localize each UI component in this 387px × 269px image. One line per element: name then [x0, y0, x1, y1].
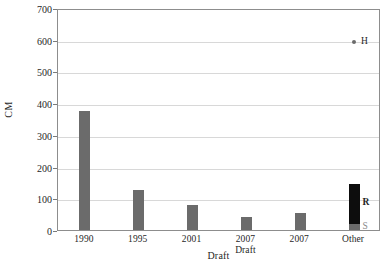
x-tick-label: 2001 [165, 234, 219, 245]
y-tick-label: 400 [12, 100, 52, 110]
bar-segment[interactable] [187, 205, 198, 230]
bar-segment[interactable] [349, 184, 360, 224]
y-tick-label: 300 [12, 132, 52, 142]
x-tick-label: 1995 [111, 234, 165, 245]
bar[interactable] [79, 9, 90, 230]
bar[interactable] [241, 9, 252, 230]
bar-segment[interactable] [133, 190, 144, 230]
y-tick-label: 0 [12, 227, 52, 237]
bar-segment[interactable] [295, 213, 306, 230]
y-tick-label: 700 [12, 5, 52, 15]
scatter-point-label: H [361, 37, 368, 47]
x-tick-label: 1990 [57, 234, 111, 245]
bar-segment[interactable] [241, 217, 252, 230]
gridline [58, 169, 379, 170]
segment-label-r: R [363, 198, 370, 208]
x-tick-label-line: 2007 [219, 234, 273, 245]
gridline [58, 200, 379, 201]
bar-segment[interactable] [79, 111, 90, 230]
x-tick-label-line: Other [326, 234, 380, 245]
x-tick-label-line: 2007 [272, 234, 326, 245]
x-tick-label: Other [326, 234, 380, 245]
x-tick-label-line: 1995 [111, 234, 165, 245]
gridline [58, 73, 379, 74]
y-tick-mark [53, 231, 57, 232]
segment-label-s: S [363, 222, 368, 231]
gridline [58, 42, 379, 43]
bar[interactable] [295, 9, 306, 230]
bar[interactable] [133, 9, 144, 230]
y-tick-label: 600 [12, 37, 52, 47]
x-tick-label: 2007 [272, 234, 326, 245]
y-tick-label: 200 [12, 164, 52, 174]
chart-container: CM 0100200300400500600700 H RS 199019952… [0, 0, 387, 269]
y-tick-label: 100 [12, 195, 52, 205]
bar-segment[interactable] [349, 224, 360, 230]
x-tick-label-line: 1990 [57, 234, 111, 245]
plot-area: H RS [57, 9, 380, 231]
gridline [58, 105, 379, 106]
x-axis-title: Draft [57, 250, 380, 261]
x-tick-label-line: 2001 [165, 234, 219, 245]
gridline [58, 137, 379, 138]
scatter-point[interactable] [352, 40, 356, 44]
bar[interactable] [187, 9, 198, 230]
y-tick-label: 500 [12, 68, 52, 78]
